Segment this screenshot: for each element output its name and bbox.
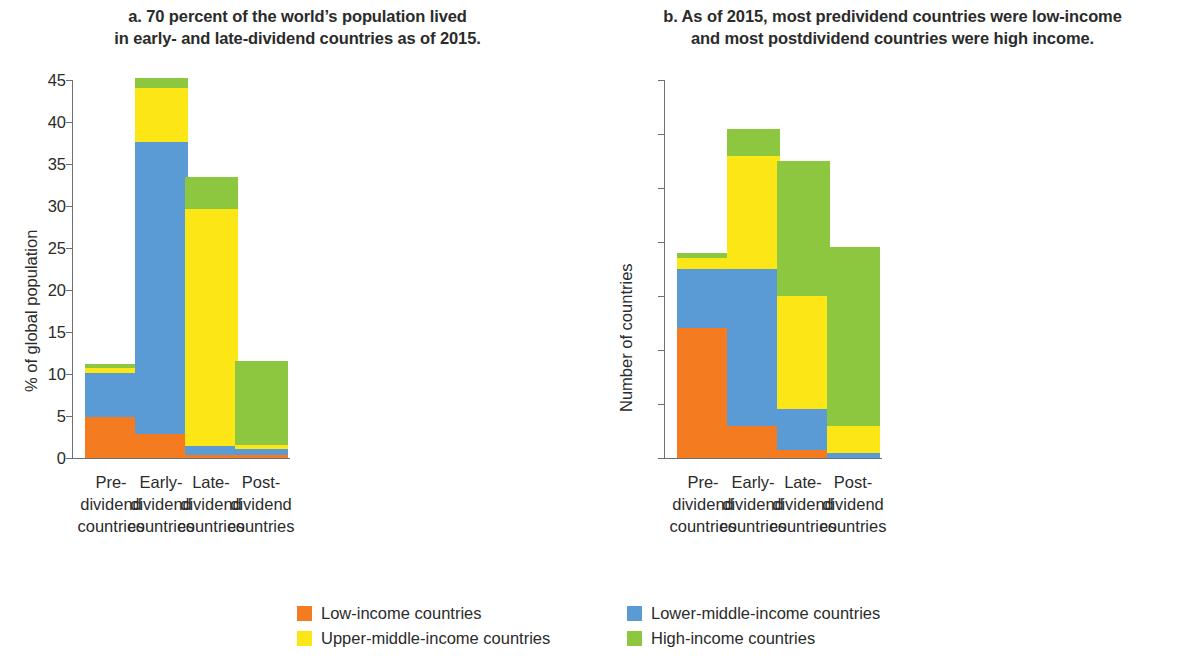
y-tick-label: 45 <box>26 71 66 90</box>
legend-label: Low-income countries <box>321 604 482 623</box>
y-tick-mark <box>658 80 665 81</box>
y-tick-label: 15 <box>26 323 66 342</box>
x-category-label: Post-dividendcountries <box>191 472 331 537</box>
figure: a. 70 percent of the world’s population … <box>0 0 1191 663</box>
legend-label: Lower-middle-income countries <box>651 604 880 623</box>
panels-row: a. 70 percent of the world’s population … <box>0 0 1191 596</box>
x-category-label-line: countries <box>191 516 331 538</box>
bar-segment <box>727 269 780 426</box>
y-axis-line <box>72 80 73 459</box>
y-tick-label: 40 <box>26 113 66 132</box>
bar-segment <box>727 156 780 269</box>
legend-label: High-income countries <box>651 629 815 648</box>
legend-label: Upper-middle-income countries <box>321 629 550 648</box>
y-tick-mark <box>66 416 73 417</box>
y-tick-mark <box>658 458 665 459</box>
y-tick-mark <box>66 248 73 249</box>
bar-segment <box>85 373 138 417</box>
y-tick-mark <box>66 122 73 123</box>
bar-segment <box>185 446 238 455</box>
y-tick-mark <box>66 206 73 207</box>
y-tick-mark <box>658 350 665 351</box>
legend-item[interactable]: Low-income countries <box>297 604 627 623</box>
legend-swatch-icon <box>297 631 312 646</box>
x-axis-line <box>72 458 290 459</box>
x-category-label-line: dividend <box>191 494 331 516</box>
bar-b-3 <box>827 247 880 458</box>
bar-a-3 <box>235 361 288 458</box>
y-tick-mark <box>658 134 665 135</box>
bar-segment <box>727 426 780 458</box>
bar-segment <box>677 269 730 328</box>
panel-b-plot: Number of countries 010203040506070 Pre-… <box>595 0 1190 596</box>
y-tick-mark <box>658 242 665 243</box>
y-tick-mark <box>658 404 665 405</box>
bar-b-0 <box>677 253 730 458</box>
bar-segment <box>185 209 238 446</box>
bar-segment <box>827 426 880 453</box>
y-tick-label: 35 <box>26 155 66 174</box>
legend-swatch-icon <box>297 606 312 621</box>
panel-b: b. As of 2015, most predividend countrie… <box>595 0 1190 596</box>
bar-b-2 <box>777 161 830 458</box>
y-tick-mark <box>658 188 665 189</box>
panel-b-y-axis-title: Number of countries <box>617 263 636 412</box>
y-tick-label: 25 <box>26 239 66 258</box>
y-tick-label: 20 <box>26 281 66 300</box>
y-axis-line <box>664 80 665 459</box>
y-tick-label: 0 <box>26 449 66 468</box>
bar-segment <box>827 247 880 425</box>
bar-segment <box>135 142 188 433</box>
bar-segment <box>135 434 188 458</box>
legend-swatch-icon <box>627 631 642 646</box>
x-category-label-line: dividend <box>783 494 923 516</box>
bar-segment <box>85 417 138 458</box>
bar-segment <box>235 449 288 456</box>
bar-segment <box>235 361 288 444</box>
bar-a-2 <box>185 177 238 458</box>
y-tick-label: 10 <box>26 365 66 384</box>
bar-segment <box>677 328 730 458</box>
y-tick-mark <box>66 164 73 165</box>
legend-swatch-icon <box>627 606 642 621</box>
y-tick-mark <box>66 80 73 81</box>
bar-segment <box>185 177 238 210</box>
y-tick-mark <box>66 332 73 333</box>
bar-a-0 <box>85 364 138 458</box>
x-category-label-line: Post- <box>191 472 331 494</box>
bar-segment <box>777 296 830 409</box>
bar-segment <box>777 161 830 296</box>
bar-a-1 <box>135 77 188 458</box>
y-tick-mark <box>658 296 665 297</box>
x-category-label: Post-dividendcountries <box>783 472 923 537</box>
bar-segment <box>135 88 188 142</box>
x-category-label-line: countries <box>783 516 923 538</box>
y-tick-label: 30 <box>26 197 66 216</box>
bar-segment <box>677 258 730 269</box>
bar-segment <box>777 450 830 458</box>
bar-segment <box>135 78 188 89</box>
panel-a: a. 70 percent of the world’s population … <box>0 0 595 596</box>
bar-b-1 <box>727 129 780 458</box>
bar-segment <box>727 129 780 156</box>
legend-item[interactable]: Upper-middle-income countries <box>297 629 627 648</box>
legend: Low-income countriesLower-middle-income … <box>0 600 1191 663</box>
legend-item[interactable]: Lower-middle-income countries <box>627 604 880 623</box>
x-category-label-line: Post- <box>783 472 923 494</box>
y-tick-mark <box>66 374 73 375</box>
panel-a-plot: % of global population 05101520253035404… <box>0 0 595 596</box>
y-tick-mark <box>66 290 73 291</box>
y-tick-label: 5 <box>26 407 66 426</box>
legend-item[interactable]: High-income countries <box>627 629 880 648</box>
y-tick-mark <box>66 458 73 459</box>
legend-grid: Low-income countriesLower-middle-income … <box>297 604 880 648</box>
x-axis-line <box>664 458 882 459</box>
bar-segment <box>777 409 830 450</box>
